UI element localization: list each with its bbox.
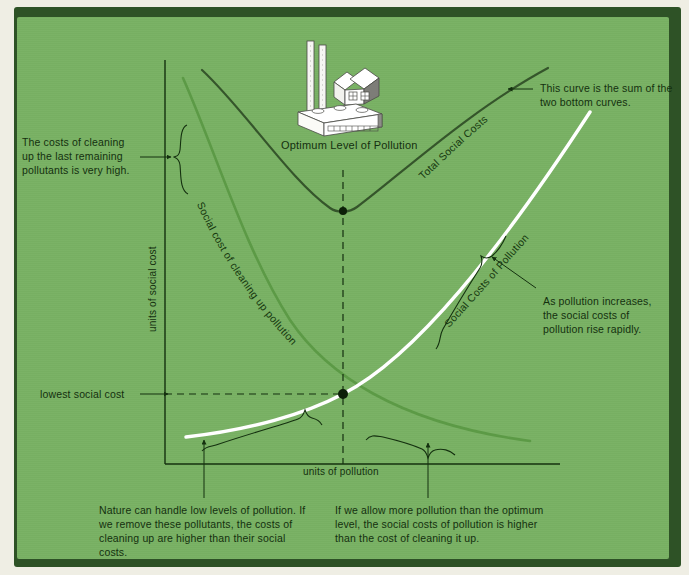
figure-page: Social cost of cleaning up pollution Tot… [0,0,689,575]
caption-over-optimum: If we allow more pollution than the opti… [335,503,570,545]
annotation-sum-of-curves-note: This curve is the sum of the two bottom … [540,81,685,109]
caption-nature-capacity: Nature can handle low levels of pollutio… [99,503,324,559]
curve-label-social-costs-of-pollution: Social Costs of Pollution [442,231,531,329]
factory-icon [298,41,382,136]
annotation-cleanup-cost-note: The costs of cleaning up the last remain… [22,135,172,177]
y-axis-label: units of social cost [147,246,158,332]
optimum-level-label: Optimum Level of Pollution [281,139,418,151]
brace-high-pollution [366,436,455,458]
x-axis-label: units of pollution [303,466,379,477]
curve-label-cleanup: Social cost of cleaning up pollution [195,200,300,347]
annotation-lowest-social-cost: lowest social cost [40,387,160,401]
curve-intersection-point [338,389,348,399]
brace-cleanup-last-pollutants [174,125,188,194]
brace-low-pollution [202,410,322,451]
curve-label-total-social-costs: Total Social Costs [416,112,490,181]
optimum-minimum-point [339,207,347,215]
annotation-pollution-rise-note: As pollution increases, the social costs… [543,294,678,336]
